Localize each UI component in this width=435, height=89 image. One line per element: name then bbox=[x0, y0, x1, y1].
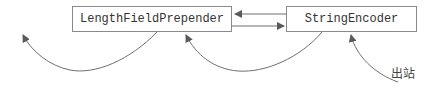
node-label: StringEncoder bbox=[305, 12, 399, 26]
outbound-label: 出站 bbox=[391, 64, 415, 81]
curve-se-to-lfp bbox=[186, 32, 322, 71]
curve-lfp-outbound bbox=[23, 32, 157, 71]
node-length-field-prepender: LengthFieldPrepender bbox=[72, 6, 232, 32]
node-string-encoder: StringEncoder bbox=[286, 6, 417, 32]
node-label: LengthFieldPrepender bbox=[80, 12, 224, 26]
